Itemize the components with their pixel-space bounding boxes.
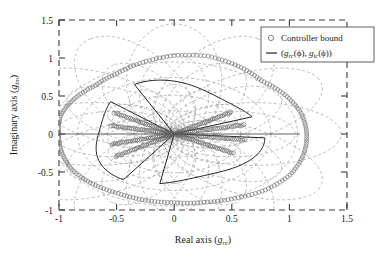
x-tick-label: -1 [55,214,63,224]
x-tick-label: 0.5 [226,214,238,224]
complex-plane-plot: -1 -0.5 0 0.5 1 1.5 1.5 1 0.5 0 -0.5 -1 [0,0,387,255]
legend-label-controller-bound: Controller bound [281,33,343,43]
figure-container: -1 -0.5 0 0.5 1 1.5 1.5 1 0.5 0 -0.5 -1 [0,0,387,255]
x-axis-title-main: Real axis ( [175,234,218,246]
x-tick-label: 1.5 [341,214,353,224]
x-tick-label: 1 [287,214,292,224]
y-tick-label: -1 [45,206,53,216]
y-tick-label: -0.5 [38,168,53,178]
legend[interactable]: Controller bound (grc(ϕ), gic(ϕ)) [261,27,374,62]
y-axis-title: Imaginary axis (gim) [8,75,20,155]
x-tick-label: -0.5 [109,214,124,224]
y-tick-label: 0.5 [41,92,53,102]
x-tick-label: 0 [172,214,177,224]
y-axis-title-close: ) [8,75,20,78]
y-tick-label: 1 [48,54,53,64]
y-tick-label: 1.5 [41,16,53,26]
y-axis-title-main: Imaginary axis ( [8,89,20,155]
y-tick-label: 0 [48,130,53,140]
x-axis-title-close: ) [228,234,231,246]
